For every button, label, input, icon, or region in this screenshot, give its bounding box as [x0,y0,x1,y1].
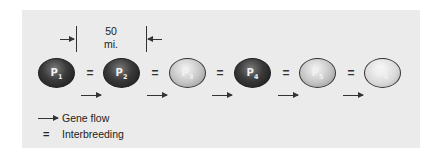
gene-flow-arrow-icon [343,95,363,96]
population-label: P1 [39,67,74,81]
population-label: P3 [170,67,205,81]
legend-interbreeding-label: Interbreeding [62,128,124,140]
population-p6: P6 [364,58,401,88]
interbreeding-symbol: = [84,66,96,80]
equals-icon: = [43,128,49,140]
population-p5: P5 [299,58,336,88]
gene-flow-arrow-icon [81,95,101,96]
population-p4: P4 [234,58,271,88]
scale-arrow-left-icon [60,39,74,40]
gene-flow-arrow-icon [212,95,232,96]
population-label: P6 [365,67,400,81]
gene-flow-arrow-icon [147,95,167,96]
population-label: P2 [104,67,139,81]
interbreeding-symbol: = [280,66,292,80]
scale-unit: mi. [96,38,126,51]
gene-flow-arrow-icon [38,118,58,119]
scale-tick-left [76,26,77,52]
scale-label: 50 mi. [96,25,126,51]
interbreeding-symbol: = [149,66,161,80]
interbreeding-symbol: = [214,66,226,80]
population-p1: P1 [38,58,75,88]
population-p3: P3 [169,58,206,88]
scale-arrow-right-icon [148,39,162,40]
population-label: P5 [300,67,335,81]
distance-scale: 50 mi. [60,24,160,56]
population-label: P4 [235,67,270,81]
interbreeding-symbol: = [345,66,357,80]
legend-gene-flow-label: Gene flow [62,112,109,124]
gene-flow-arrow-icon [278,95,298,96]
scale-value: 50 [96,25,126,38]
population-p2: P2 [103,58,140,88]
